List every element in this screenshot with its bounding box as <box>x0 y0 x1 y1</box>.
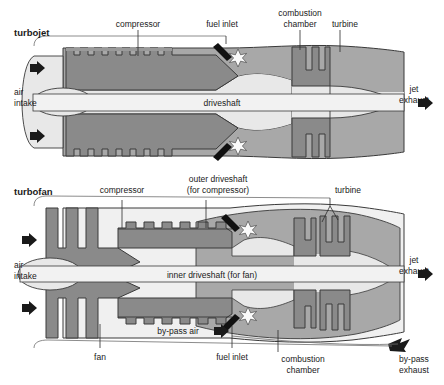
turbofan-bypass-exhaust-label-line2: exhaust <box>399 365 429 375</box>
turbojet-figure: driveshaft turbojet compressor fuel inle… <box>14 8 433 161</box>
turbofan-combustion-label-line1: combustion <box>281 354 325 364</box>
turbofan-intake-arrow-upper <box>22 233 37 247</box>
turbofan-bypass-exhaust-arrow <box>388 338 410 352</box>
turbojet-air-intake-label-line1: air <box>14 87 24 97</box>
turbojet-compressor-label: compressor <box>116 19 161 29</box>
turbofan-inner-driveshaft: inner driveshaft (for fan) <box>20 266 404 282</box>
turbojet-driveshaft: driveshaft <box>33 94 404 111</box>
turbofan-bypass-air-label: by-pass air <box>157 326 199 336</box>
turbojet-fuel-inlet-label: fuel inlet <box>206 19 238 29</box>
turbofan-fan-label: fan <box>94 352 106 362</box>
turbofan-fuel-inlet-label: fuel inlet <box>216 352 248 362</box>
turbojet-air-intake-label-line2: intake <box>14 98 37 108</box>
turbofan-outer-driveshaft-label-line1: outer driveshaft <box>189 174 248 184</box>
jet-engine-diagram: driveshaft turbojet compressor fuel inle… <box>0 0 444 385</box>
turbofan-combustion-label-line2: chamber <box>286 365 319 375</box>
turbofan-turbine-label: turbine <box>335 185 361 195</box>
turbofan-intake-arrow-lower <box>22 301 37 315</box>
turbojet-driveshaft-label: driveshaft <box>204 98 241 108</box>
turbofan-figure: inner driveshaft (for fan) <box>14 174 433 375</box>
turbojet-turbine-label: turbine <box>332 19 358 29</box>
turbojet-combustion-label-line1: combustion <box>278 8 322 18</box>
turbofan-outer-driveshaft-label-line2: (for compressor) <box>187 185 250 195</box>
turbofan-bypass-exhaust-label-line1: by-pass <box>399 354 429 364</box>
turbofan-jet-exhaust-label-line1: jet <box>409 255 420 265</box>
turbojet-jet-exhaust-label-line2: exhaust <box>399 95 429 105</box>
turbojet-jet-exhaust-label-line1: jet <box>409 84 420 94</box>
turbofan-jet-exhaust-label-line2: exhaust <box>399 266 429 276</box>
turbofan-air-intake-label-line1: air <box>14 260 24 270</box>
turbofan-air-intake-label-line2: intake <box>14 271 37 281</box>
turbojet-combustion-label-line2: chamber <box>283 19 316 29</box>
turbofan-title: turbofan <box>14 186 53 197</box>
diagram-canvas: driveshaft turbojet compressor fuel inle… <box>0 0 444 385</box>
turbofan-inner-driveshaft-label: inner driveshaft (for fan) <box>167 270 257 280</box>
turbojet-title: turbojet <box>14 27 50 38</box>
turbofan-compressor-label: compressor <box>100 185 145 195</box>
